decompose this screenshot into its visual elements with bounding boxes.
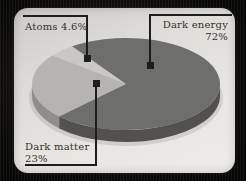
- marker-dark-matter: [93, 80, 100, 87]
- pie-tops: [32, 38, 220, 130]
- label-dark-matter: Dark matter 23%: [25, 141, 89, 164]
- label-dark-matter-name: Dark matter: [25, 141, 89, 153]
- label-dark-matter-value: 23%: [25, 153, 89, 165]
- marker-dark-energy: [147, 62, 154, 69]
- label-atoms: Atoms 4.6%: [25, 21, 87, 33]
- marker-atoms: [84, 55, 91, 62]
- label-dark-energy-value: 72%: [163, 31, 228, 43]
- label-dark-energy: Dark energy 72%: [163, 19, 228, 42]
- label-dark-energy-name: Dark energy: [163, 19, 228, 31]
- screenshot-root: Atoms 4.6% Dark energy 72% Dark matter 2…: [0, 0, 246, 181]
